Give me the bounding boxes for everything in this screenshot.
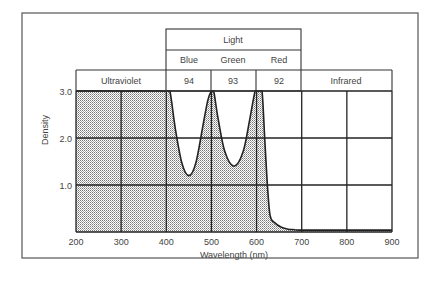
- blue-label: Blue: [180, 55, 198, 65]
- filter-93-label: 93: [228, 76, 238, 86]
- x-tick-300: 300: [114, 237, 129, 247]
- x-tick-700: 700: [294, 237, 309, 247]
- x-tick-800: 800: [339, 237, 354, 247]
- red-label: Red: [271, 55, 288, 65]
- x-tick-900: 900: [384, 237, 399, 247]
- y-tick-3: 3.0: [59, 87, 72, 97]
- filter-94-label: 94: [184, 76, 194, 86]
- y-axis-label: Density: [40, 114, 50, 145]
- x-axis-label: Wavelength (nm): [200, 250, 268, 260]
- x-tick-500: 500: [204, 237, 219, 247]
- x-tick-600: 600: [249, 237, 264, 247]
- green-label: Green: [220, 55, 245, 65]
- filter-92-label: 92: [274, 76, 284, 86]
- infrared-label: Infrared: [330, 76, 361, 86]
- x-tick-labels: 200300400500600700800900: [68, 237, 399, 247]
- y-tick-2: 2.0: [59, 134, 72, 144]
- chart: Light Blue Green Red Ultraviolet 94 93 9…: [0, 0, 429, 284]
- density-area: [76, 91, 392, 232]
- y-tick-1: 1.0: [59, 181, 72, 191]
- x-tick-400: 400: [159, 237, 174, 247]
- ultraviolet-label: Ultraviolet: [101, 76, 142, 86]
- x-tick-200: 200: [68, 237, 83, 247]
- light-label: Light: [223, 35, 243, 45]
